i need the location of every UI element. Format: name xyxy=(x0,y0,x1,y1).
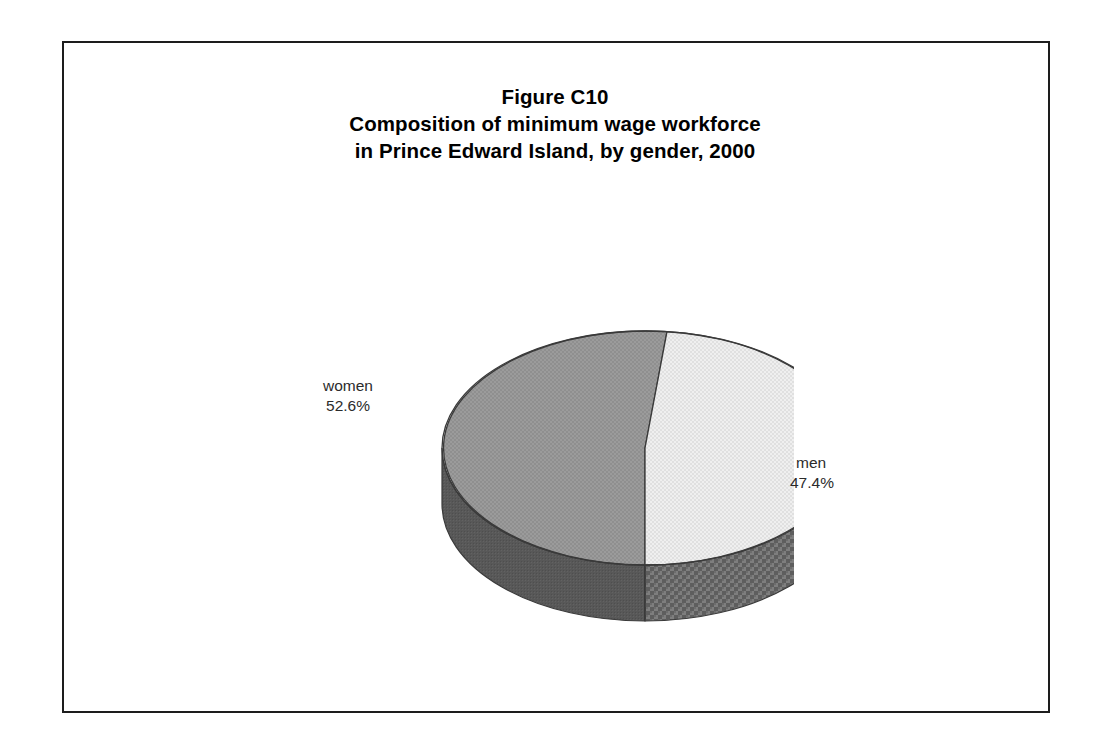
pie-label-women-name: women xyxy=(302,376,394,396)
pie-label-men-value: 47.4% xyxy=(790,473,882,493)
pie-label-men: men 47.4% xyxy=(790,453,882,493)
pie-label-women-value: 52.6% xyxy=(302,396,394,416)
pie-chart-3d xyxy=(314,243,794,663)
chart-plot-area: women 52.6% men 47.4% xyxy=(64,43,1048,711)
pie-slice-top-men xyxy=(645,332,794,565)
pie-label-women: women 52.6% xyxy=(302,376,394,416)
figure-frame: Figure C10 Composition of minimum wage w… xyxy=(62,41,1050,713)
pie-label-men-name: men xyxy=(790,453,882,473)
